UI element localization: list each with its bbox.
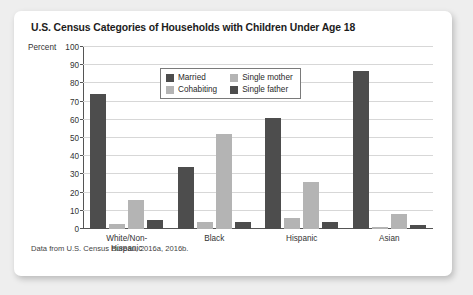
x-axis-label: Black: [204, 234, 224, 244]
y-tick-label: 40: [70, 152, 79, 161]
x-axis-label: Hispanic: [286, 234, 317, 244]
y-tick-mark: [80, 137, 83, 138]
legend-swatch-icon: [166, 86, 174, 94]
y-axis-line: [83, 47, 84, 229]
bar: [322, 222, 338, 229]
chart-card: U.S. Census Categories of Households wit…: [14, 11, 452, 276]
y-tick-mark: [80, 82, 83, 83]
bar: [353, 71, 369, 229]
y-tick-label: 30: [70, 170, 79, 179]
bar: [410, 225, 426, 229]
legend-item: Single father: [230, 85, 293, 94]
legend-label: Cohabiting: [178, 85, 217, 94]
legend-item: Married: [166, 73, 217, 82]
y-tick-label: 10: [70, 206, 79, 215]
y-tick-label: 0: [74, 225, 79, 234]
y-tick-label: 80: [70, 79, 79, 88]
y-tick-label: 100: [65, 43, 79, 52]
legend-item: Cohabiting: [166, 85, 217, 94]
bar: [147, 220, 163, 229]
bar: [109, 224, 125, 229]
bar: [265, 118, 281, 229]
legend-item: Single mother: [230, 73, 293, 82]
legend-label: Married: [178, 73, 206, 82]
legend-label: Single father: [242, 85, 288, 94]
legend-swatch-icon: [230, 74, 238, 82]
y-tick-mark: [80, 64, 83, 65]
bar-group: Asian: [353, 47, 426, 229]
y-tick-label: 90: [70, 61, 79, 70]
y-tick-mark: [80, 155, 83, 156]
bar: [284, 218, 300, 229]
bar: [90, 94, 106, 229]
bar: [197, 222, 213, 229]
y-tick-mark: [80, 101, 83, 102]
y-tick-mark: [80, 192, 83, 193]
y-tick-label: 70: [70, 97, 79, 106]
chart-legend: MarriedSingle motherCohabitingSingle fat…: [160, 68, 301, 99]
bar: [303, 182, 319, 229]
y-tick-label: 60: [70, 115, 79, 124]
bar-group: White/Non-Hispanic: [90, 47, 163, 229]
y-tick-mark: [80, 119, 83, 120]
bar: [178, 167, 194, 229]
y-tick-mark: [80, 210, 83, 211]
legend-swatch-icon: [230, 86, 238, 94]
bar: [235, 222, 251, 229]
y-axis-title: Percent: [28, 43, 56, 52]
bar: [391, 214, 407, 229]
y-tick-mark: [80, 46, 83, 47]
y-tick-label: 20: [70, 188, 79, 197]
y-tick-label: 50: [70, 134, 79, 143]
bar: [372, 227, 388, 229]
x-axis-label: Asian: [379, 234, 399, 244]
legend-label: Single mother: [242, 73, 293, 82]
y-tick-mark: [80, 173, 83, 174]
legend-swatch-icon: [166, 74, 174, 82]
bar: [216, 134, 232, 229]
chart-title: U.S. Census Categories of Households wit…: [31, 22, 355, 33]
source-note: Data from U.S. Census Bureau, 2016a, 201…: [31, 244, 188, 253]
bar: [128, 200, 144, 229]
y-tick-mark: [80, 228, 83, 229]
